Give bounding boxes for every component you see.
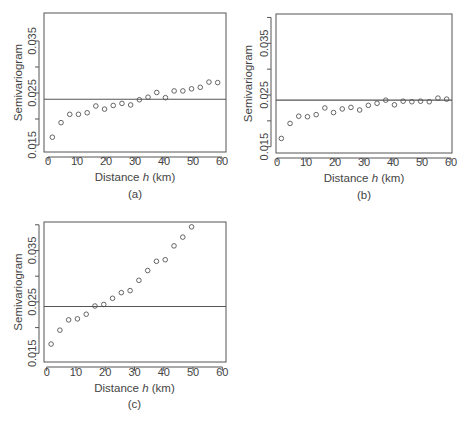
y-tick-label: 0.015 bbox=[26, 340, 38, 368]
data-point bbox=[110, 296, 115, 301]
y-tick-label: 0.025 bbox=[258, 81, 270, 109]
data-point bbox=[392, 103, 397, 108]
y-tick-label: 0.035 bbox=[26, 237, 38, 265]
data-point bbox=[76, 112, 81, 117]
x-tick-label: 60 bbox=[445, 156, 457, 168]
x-tick-label: 50 bbox=[187, 155, 199, 167]
panel-c: 01020304050600.0150.0250.035Semivariogra… bbox=[12, 222, 228, 410]
x-tick-label: 10 bbox=[70, 366, 82, 378]
panel-label: (b) bbox=[357, 189, 371, 201]
x-tick-label: 60 bbox=[216, 366, 228, 378]
data-point bbox=[67, 112, 72, 117]
data-point bbox=[119, 290, 124, 295]
panel-label: (a) bbox=[128, 188, 142, 200]
x-tick-label: 20 bbox=[329, 156, 341, 168]
x-axis-title-part: Distance bbox=[324, 172, 372, 184]
data-point bbox=[180, 235, 185, 240]
data-point bbox=[444, 97, 449, 102]
data-point bbox=[172, 89, 177, 94]
data-point bbox=[128, 288, 133, 293]
data-point bbox=[215, 80, 220, 85]
data-point bbox=[49, 342, 54, 347]
data-point bbox=[198, 85, 203, 90]
panel-b: 01020304050600.0150.0250.035Semivariogra… bbox=[242, 14, 457, 201]
panel-a: 01020304050600.0150.0250.035Semivariogra… bbox=[12, 13, 228, 200]
data-point bbox=[279, 136, 284, 141]
x-tick-label: 60 bbox=[216, 155, 228, 167]
data-point bbox=[207, 80, 212, 85]
x-axis-title-part: Distance bbox=[95, 171, 143, 183]
data-point bbox=[102, 107, 107, 112]
x-tick-label: 30 bbox=[129, 155, 141, 167]
plot-frame bbox=[44, 222, 226, 362]
y-axis-title: Semivariogram bbox=[242, 45, 254, 122]
data-point bbox=[75, 317, 80, 322]
x-axis-title: Distance h (km) bbox=[95, 171, 176, 183]
data-point bbox=[349, 105, 354, 110]
y-axis-title: Semivariogram bbox=[12, 44, 24, 121]
data-point bbox=[111, 103, 116, 108]
x-tick-label: 50 bbox=[416, 156, 428, 168]
panel-label: (c) bbox=[128, 398, 142, 410]
data-point bbox=[154, 90, 159, 95]
x-axis-title-part: (km) bbox=[378, 172, 404, 184]
data-point bbox=[340, 107, 345, 112]
data-point bbox=[366, 103, 371, 108]
x-tick-label: 50 bbox=[187, 366, 199, 378]
y-tick-label: 0.035 bbox=[26, 27, 38, 55]
data-point bbox=[163, 257, 168, 262]
x-tick-label: 0 bbox=[45, 155, 51, 167]
x-tick-label: 10 bbox=[71, 155, 83, 167]
x-axis-title-part: Distance bbox=[94, 382, 142, 394]
data-point bbox=[331, 110, 336, 115]
data-point bbox=[58, 328, 63, 333]
x-axis-title: Distance h (km) bbox=[324, 172, 405, 184]
data-point bbox=[401, 99, 406, 104]
y-tick-label: 0.035 bbox=[258, 30, 270, 58]
y-tick-label: 0.025 bbox=[26, 79, 38, 107]
data-point bbox=[189, 87, 194, 92]
data-point bbox=[84, 312, 89, 317]
x-tick-label: 20 bbox=[99, 366, 111, 378]
figure-canvas: 01020304050600.0150.0250.035Semivariogra… bbox=[0, 0, 467, 421]
data-point bbox=[50, 135, 55, 140]
data-point bbox=[59, 120, 64, 125]
data-point bbox=[85, 110, 90, 115]
data-point bbox=[120, 101, 125, 106]
y-tick-label: 0.015 bbox=[26, 131, 38, 159]
plot-frame bbox=[44, 13, 226, 152]
x-axis-title-part: (km) bbox=[149, 171, 175, 183]
data-point bbox=[172, 244, 177, 249]
semivariogram-figure: 01020304050600.0150.0250.035Semivariogra… bbox=[0, 0, 467, 421]
data-point bbox=[323, 106, 328, 111]
x-tick-label: 0 bbox=[274, 156, 280, 168]
data-point bbox=[137, 278, 142, 283]
x-tick-label: 10 bbox=[300, 156, 312, 168]
data-point bbox=[94, 104, 99, 109]
data-point bbox=[189, 225, 194, 230]
x-tick-label: 40 bbox=[158, 366, 170, 378]
data-point bbox=[181, 89, 186, 94]
x-axis-title: Distance h (km) bbox=[94, 382, 175, 394]
data-point bbox=[418, 99, 423, 104]
x-tick-label: 20 bbox=[100, 155, 112, 167]
data-point bbox=[296, 114, 301, 119]
data-point bbox=[128, 103, 133, 108]
data-point bbox=[288, 121, 293, 126]
data-point bbox=[145, 268, 150, 273]
data-point bbox=[305, 114, 310, 119]
data-point bbox=[66, 318, 71, 323]
data-point bbox=[314, 112, 319, 117]
plot-frame bbox=[276, 14, 452, 153]
x-tick-label: 40 bbox=[387, 156, 399, 168]
y-tick-label: 0.025 bbox=[26, 288, 38, 316]
data-point bbox=[375, 101, 380, 106]
x-axis-title-part: (km) bbox=[149, 382, 175, 394]
data-point bbox=[357, 108, 362, 113]
y-tick-label: 0.015 bbox=[258, 133, 270, 161]
x-tick-label: 40 bbox=[158, 155, 170, 167]
data-point bbox=[154, 259, 159, 264]
x-tick-label: 30 bbox=[128, 366, 140, 378]
x-tick-label: 30 bbox=[358, 156, 370, 168]
y-axis-title: Semivariogram bbox=[12, 253, 24, 330]
